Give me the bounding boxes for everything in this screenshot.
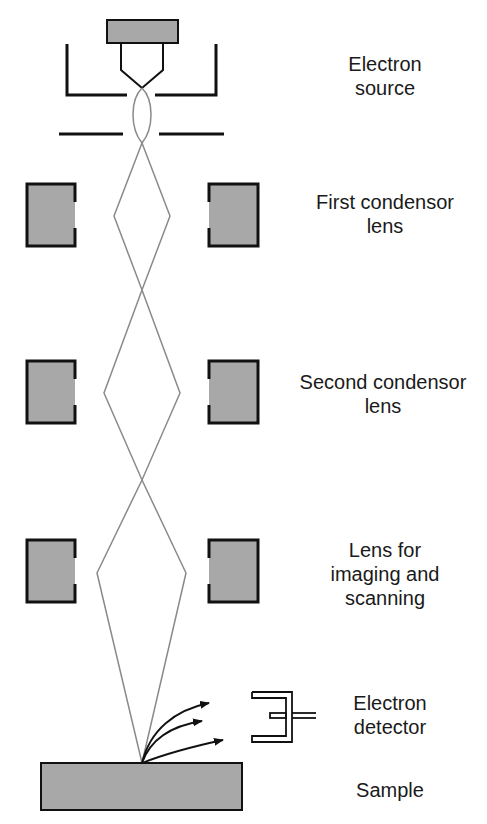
label-electron-source-line1: Electron [300,52,470,76]
first-condensor-lens [27,184,258,246]
sample-block [41,763,242,810]
electron-beam [97,88,186,763]
electron-gun [107,20,178,88]
label-detector: Electron detector [320,691,460,739]
second-condensor-lens [27,361,258,423]
label-imaging-lens-line2: imaging and [300,562,470,586]
label-sample-line1: Sample [320,778,460,802]
label-imaging-lens: Lens for imaging and scanning [300,538,470,610]
label-second-condensor-line2: lens [283,394,483,418]
label-first-condensor-line2: lens [295,214,475,238]
label-detector-line1: Electron [320,691,460,715]
label-second-condensor-line1: Second condensor [283,370,483,394]
label-second-condensor: Second condensor lens [283,370,483,418]
imaging-scanning-lens [27,540,258,602]
label-first-condensor-line1: First condensor [295,190,475,214]
label-electron-source-line2: source [300,76,470,100]
label-imaging-lens-line1: Lens for [300,538,470,562]
label-imaging-lens-line3: scanning [300,586,470,610]
label-electron-source: Electron source [300,52,470,100]
label-sample: Sample [320,778,460,802]
label-first-condensor: First condensor lens [295,190,475,238]
label-detector-line2: detector [320,715,460,739]
electron-detector [252,692,316,742]
